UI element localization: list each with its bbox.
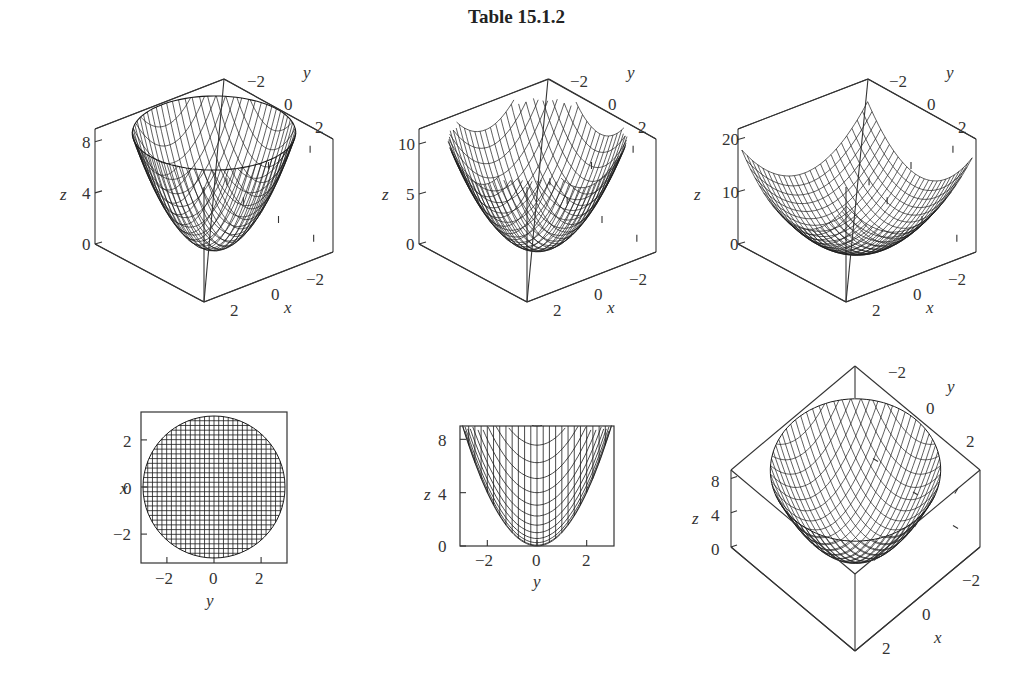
x-tick: 2 [553,301,562,320]
x-tick-0: 0 [209,569,218,588]
x-tick: 2 [872,301,881,320]
surface-plot-high-elevation: z 8 4 0 −2 0 2 y −2 0 x 2 [691,363,980,658]
y-axis-label: y [625,63,635,82]
x-tick-neg2: −2 [155,569,173,588]
y-tick: 0 [608,95,617,114]
z-axis-label: z [691,509,699,528]
surface-plot-disk: 048z−202y20−2x [59,63,333,320]
y-tick: 2 [958,118,967,137]
z-tick-0: 0 [438,537,447,556]
x-tick: −2 [629,270,647,289]
x-tick-2: 2 [255,569,264,588]
z-tick-8: 8 [711,472,720,491]
x-tick-0: 0 [532,551,541,570]
x-tick: −2 [948,270,966,289]
x-tick: 0 [594,285,603,304]
y-tick: −2 [247,72,265,91]
y-tick-2: 2 [966,432,975,451]
y-tick-neg2: −2 [888,363,906,382]
z-tick: 10 [398,135,415,154]
x-axis-label: x [925,298,934,317]
z-tick-0: 0 [711,540,720,559]
y-tick: −2 [889,72,907,91]
z-tick: 0 [730,235,739,254]
top-view-plot: x 2 0 −2 −2 0 2 y [113,412,287,610]
z-tick: 10 [722,183,739,202]
x-axis-label: y [204,591,214,610]
y-axis-label: y [945,377,955,396]
y-tick-2: 2 [123,432,132,451]
x-tick: 0 [913,285,922,304]
y-tick-neg2: −2 [113,525,131,544]
y-tick: 2 [315,118,324,137]
z-tick-4: 4 [711,506,720,525]
z-tick: 0 [406,235,415,254]
x-tick-neg2: −2 [962,571,980,590]
z-tick: 0 [82,235,91,254]
x-tick-2: 2 [582,551,591,570]
y-tick: 0 [284,95,293,114]
side-view-plot: z 8 4 0 −2 0 2 y [423,425,614,591]
x-tick: 0 [271,285,280,304]
y-tick-0: 0 [926,399,935,418]
x-axis-label: x [933,628,942,647]
y-tick: −2 [570,72,588,91]
z-tick-8: 8 [438,431,447,450]
y-tick: 0 [927,95,936,114]
x-tick-0: 0 [922,605,931,624]
y-tick: 2 [638,118,647,137]
y-axis-label: y [301,63,311,82]
y-axis-label: y [944,63,954,82]
x-tick-neg2: −2 [475,551,493,570]
x-axis-label: x [606,298,615,317]
z-tick: 20 [722,130,739,149]
x-tick-2: 2 [882,639,891,658]
surface-plot-square-cropped: 0510z−202y20−2x [381,63,656,320]
z-tick: 4 [82,184,91,203]
x-axis-label: x [283,298,292,317]
z-tick: 5 [406,185,415,204]
z-axis-label: z [423,485,431,504]
z-axis-label: z [59,185,67,204]
x-axis-label: y [531,572,541,591]
z-axis-label: z [381,185,389,204]
x-tick: 2 [230,301,239,320]
z-tick-4: 4 [438,485,447,504]
x-tick: −2 [306,270,324,289]
surface-plot-square-full: 01020z−202y20−2x [693,63,976,320]
z-tick: 8 [82,133,91,152]
y-tick-0: 0 [123,479,132,498]
z-axis-label: z [693,185,701,204]
